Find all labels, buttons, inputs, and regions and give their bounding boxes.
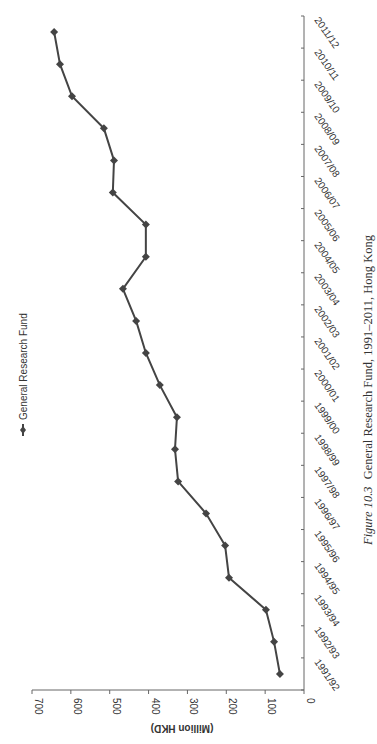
category-tick-label: 2004/05 (312, 240, 342, 276)
category-tick-label: 1994/95 (312, 561, 342, 597)
data-point-diamond-icon (56, 60, 64, 68)
data-point-diamond-icon (171, 445, 179, 453)
category-tick-label: 2003/04 (312, 272, 342, 308)
caption-text: General Research Fund, 1991–2011, Hong K… (361, 234, 375, 479)
category-tick-label: 2002/03 (312, 304, 342, 340)
category-tick-label: 2011/12 (312, 15, 342, 51)
category-tick-label: 1992/93 (312, 625, 342, 661)
value-tick-label: 700 (33, 698, 44, 715)
category-tick-label: 1998/99 (312, 432, 342, 468)
plot-area: 01002003004005006007001991/921992/931993… (32, 15, 342, 715)
data-point-diamond-icon (132, 317, 140, 325)
category-tick-label: 1996/97 (312, 496, 342, 532)
data-point-diamond-icon (156, 381, 164, 389)
legend-diamond-icon (20, 426, 26, 434)
data-point-diamond-icon (110, 156, 118, 164)
category-tick-label: 2010/11 (312, 47, 342, 83)
figure-caption: Figure 10.3 General Research Fund, 1991–… (361, 234, 375, 546)
category-tick-label: 1999/00 (312, 400, 342, 436)
value-tick-label: 200 (227, 698, 238, 715)
category-tick-label: 2009/10 (312, 79, 342, 115)
legend: General Research Fund (18, 313, 29, 436)
value-tick-label: 600 (72, 698, 83, 715)
category-tick-label: 2006/07 (312, 175, 342, 211)
category-tick-label: 2005/06 (312, 207, 342, 243)
value-tick-label: 100 (266, 698, 277, 715)
data-point-diamond-icon (173, 413, 181, 421)
category-tick-label: 2007/08 (312, 143, 342, 179)
value-tick-label: 300 (188, 698, 199, 715)
value-tick-label: 0 (305, 698, 316, 704)
chart: 01002003004005006007001991/921992/931993… (0, 0, 377, 744)
data-point-diamond-icon (276, 670, 284, 678)
y-axis-title: (Million HKD) (151, 723, 214, 734)
category-tick-label: 2001/02 (312, 336, 342, 372)
data-point-diamond-icon (50, 28, 58, 36)
data-point-diamond-icon (270, 638, 278, 646)
category-tick-label: 1991/92 (312, 657, 342, 693)
svg-text:Figure 10.3 General Rese: Figure 10.3 General Research Fund, 1991–… (361, 234, 375, 546)
category-tick-label: 1997/98 (312, 464, 342, 500)
category-tick-label: 2000/01 (312, 368, 342, 404)
data-point-diamond-icon (142, 349, 150, 357)
category-tick-label: 1993/94 (312, 593, 342, 629)
legend-label: General Research Fund (18, 313, 29, 420)
series-line (54, 32, 280, 674)
category-tick-label: 2008/09 (312, 111, 342, 147)
value-tick-label: 500 (111, 698, 122, 715)
caption-figure-label: Figure 10.3 (361, 486, 375, 546)
category-tick-label: 1995/96 (312, 528, 342, 564)
value-tick-label: 400 (150, 698, 161, 715)
